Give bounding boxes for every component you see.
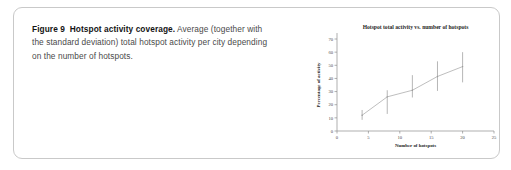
- figure-panel: Figure 9 Hotspot activity coverage. Aver…: [13, 7, 500, 159]
- data-series: [361, 52, 463, 120]
- x-tick-label: 0: [336, 135, 339, 140]
- x-tick-label: 15: [429, 135, 434, 140]
- x-axis-ticks: 0510152025: [336, 131, 497, 140]
- figure-label: Figure 9: [32, 24, 65, 34]
- x-tick-label: 5: [367, 135, 370, 140]
- x-tick-label: 20: [460, 135, 465, 140]
- chart-container: Hotspot total activity vs. number of hot…: [311, 17, 499, 157]
- x-axis-label: Number of hotspots: [395, 143, 436, 148]
- y-tick-label: 30: [328, 89, 333, 94]
- y-tick-label: 0: [331, 129, 334, 134]
- x-tick-label: 25: [492, 135, 497, 140]
- y-axis-label: Percentage of activity: [316, 62, 321, 108]
- caption-text: Figure 9 Hotspot activity coverage. Aver…: [32, 23, 270, 63]
- chart-title-group: Hotspot total activity vs. number of hot…: [363, 24, 470, 30]
- data-point: [462, 66, 463, 67]
- activity-line-chart: Hotspot total activity vs. number of hot…: [311, 17, 499, 157]
- y-tick-label: 50: [328, 63, 333, 68]
- data-point: [387, 96, 388, 97]
- y-tick-label: 10: [328, 116, 333, 121]
- y-tick-label: 20: [328, 102, 333, 107]
- x-tick-label: 10: [398, 135, 403, 140]
- data-point: [361, 115, 362, 116]
- y-tick-label: 40: [328, 76, 333, 81]
- figure-caption: Figure 9 Hotspot activity coverage. Aver…: [32, 23, 270, 63]
- data-point: [412, 90, 413, 91]
- chart-title: Hotspot total activity vs. number of hot…: [363, 24, 470, 30]
- chart-axes: [337, 33, 494, 131]
- y-tick-label: 60: [328, 50, 333, 55]
- y-tick-label: 70: [328, 37, 333, 42]
- figure-title: Hotspot activity coverage.: [70, 24, 175, 34]
- data-point: [437, 76, 438, 77]
- y-axis-ticks: 010203040506070: [328, 37, 337, 134]
